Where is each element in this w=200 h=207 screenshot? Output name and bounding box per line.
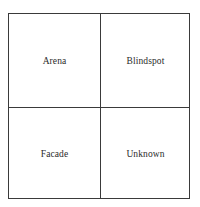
quadrant-label: Blindspot — [127, 56, 165, 66]
quadrant-facade: Facade — [9, 108, 100, 199]
quadrant-blindspot: Blindspot — [101, 14, 190, 107]
quadrant-arena: Arena — [9, 14, 100, 107]
quadrant-label: Unknown — [126, 149, 164, 159]
quadrant-unknown: Unknown — [101, 108, 190, 199]
quadrant-grid: Arena Blindspot Facade Unknown — [8, 13, 190, 199]
quadrant-label: Facade — [41, 149, 69, 159]
quadrant-label: Arena — [43, 56, 67, 66]
